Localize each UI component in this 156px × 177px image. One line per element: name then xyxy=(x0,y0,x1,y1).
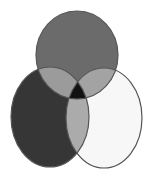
venn-diagram xyxy=(0,0,156,177)
venn-svg xyxy=(0,0,156,177)
